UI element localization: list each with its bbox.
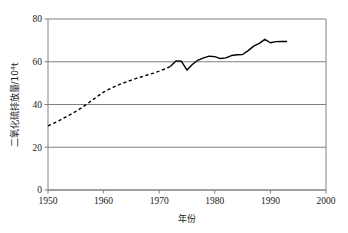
x-axis-tick-labels: 195019601970198019902000 [39, 196, 336, 206]
x-axis-ticks [48, 190, 326, 194]
y-axis-title-base: 二氧化硫排放量/10 [9, 70, 20, 148]
x-tick-label-1970: 1970 [150, 196, 169, 206]
x-tick-label-1950: 1950 [39, 196, 58, 206]
y-tick-label-60: 60 [33, 57, 43, 67]
x-tick-label-1980: 1980 [205, 196, 224, 206]
y-tick-label-40: 40 [33, 100, 43, 110]
x-tick-label-1990: 1990 [261, 196, 280, 206]
x-tick-label-1960: 1960 [94, 196, 113, 206]
y-axis-title-group: 二氧化硫排放量/104t [9, 62, 20, 147]
y-axis-title: 二氧化硫排放量/104t [9, 62, 20, 147]
line-chart: 195019601970198019902000 020406080 年份 二氧… [0, 0, 348, 233]
y-axis-title-unit: t [10, 62, 20, 66]
y-axis-tick-labels: 020406080 [33, 14, 43, 195]
y-tick-label-20: 20 [33, 143, 43, 153]
x-tick-label-2000: 2000 [317, 196, 336, 206]
y-tick-label-80: 80 [33, 14, 43, 24]
y-axis-ticks [45, 19, 49, 190]
y-tick-label-0: 0 [37, 185, 42, 195]
chart-figure: 195019601970198019902000 020406080 年份 二氧… [0, 0, 348, 233]
x-axis-title: 年份 [178, 213, 196, 224]
